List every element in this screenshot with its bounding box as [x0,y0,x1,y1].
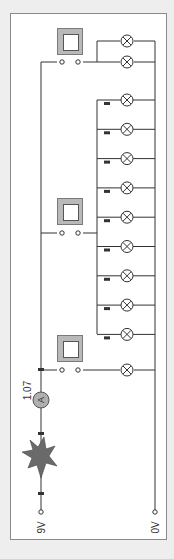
terminal-9v[interactable] [39,510,43,514]
switch-contact [76,231,80,235]
terminal-0v[interactable] [153,510,157,514]
lamp-icon [121,35,133,47]
ammeter-reading: 1.07 [22,381,33,400]
switch-icon [63,34,79,51]
ammeter[interactable]: A [33,392,49,408]
label-9v: 9V [36,521,47,533]
switch-icon [63,204,79,221]
switch-icon [63,341,79,358]
switch-contact [76,60,80,64]
svg-text:A: A [36,397,46,403]
switch-contact [60,368,64,372]
switch-contact [60,231,64,235]
label-0v: 0V [150,521,161,533]
blown-component-starburst[interactable] [22,437,57,478]
switch-contact [60,60,64,64]
switch-contact [76,368,80,372]
lamp-icon [121,364,133,376]
circuit-diagram: A [0,0,174,559]
lamp-icon [121,56,133,68]
switch-bottom[interactable] [57,335,83,362]
switch-top[interactable] [57,28,83,55]
switch-middle[interactable] [57,198,83,225]
